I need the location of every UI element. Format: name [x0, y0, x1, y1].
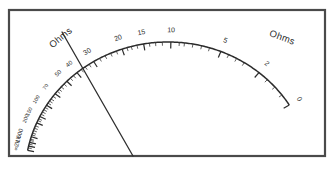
meter-face: 025101520304050701001502005001k2k∞ Ohms … [0, 0, 335, 169]
tick-minor [149, 43, 150, 47]
ohms-scale-diagram: 025101520304050701001502005001k2k∞ Ohms … [0, 0, 335, 169]
scale-label-15: 15 [137, 28, 146, 36]
scale-label-10: 10 [167, 26, 175, 33]
